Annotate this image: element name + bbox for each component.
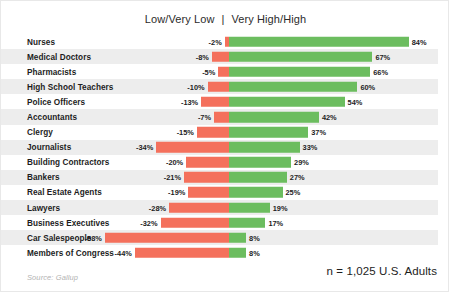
value-label-negative: -32%: [140, 218, 157, 227]
category-label: Pharmacists: [27, 67, 76, 76]
category-label: Accountants: [27, 113, 77, 122]
value-label-positive: 25%: [286, 188, 301, 197]
chart-row: Car Salespeople-58%8%: [1, 230, 438, 245]
bar-positive: [229, 217, 265, 228]
bar-negative: [201, 97, 229, 108]
category-label: Nurses: [27, 37, 55, 46]
bar-positive: [229, 233, 246, 244]
value-label-negative: -58%: [85, 233, 102, 242]
chart-row: Medical Doctors-8%67%: [1, 49, 438, 64]
value-label-positive: 33%: [303, 143, 318, 152]
value-label-positive: 29%: [294, 158, 309, 167]
value-label-positive: 66%: [373, 67, 388, 76]
chart-container: Low/Very Low|Very High/High Nurses-2%84%…: [0, 0, 449, 292]
value-label-positive: 42%: [322, 113, 337, 122]
chart-row: Lawyers-28%19%: [1, 200, 438, 215]
chart-row: Business Executives-32%17%: [1, 215, 438, 230]
value-label-negative: -13%: [181, 97, 198, 106]
chart-row: Nurses-2%84%: [1, 34, 438, 49]
value-label-positive: 60%: [360, 82, 375, 91]
category-label: Clergy: [27, 128, 53, 137]
value-label-negative: -19%: [168, 188, 185, 197]
bar-negative: [169, 202, 229, 213]
value-label-positive: 27%: [290, 173, 305, 182]
bar-negative: [218, 66, 229, 77]
bar-positive: [229, 51, 372, 62]
category-label: Journalists: [27, 143, 71, 152]
bar-positive: [229, 112, 319, 123]
bar-negative: [135, 248, 229, 259]
value-label-positive: 54%: [348, 97, 363, 106]
chart-row: Pharmacists-5%66%: [1, 64, 438, 79]
bar-negative: [212, 51, 229, 62]
chart-row: Real Estate Agents-19%25%: [1, 185, 438, 200]
source-note: Source: Gallup: [27, 273, 78, 282]
bar-negative: [188, 187, 229, 198]
bar-positive: [229, 157, 291, 168]
sample-size-note: n = 1,025 U.S. Adults: [327, 265, 437, 277]
chart-legend: Low/Very Low|Very High/High: [1, 13, 449, 25]
bar-positive: [229, 36, 409, 47]
chart-plot-area: Nurses-2%84%Medical Doctors-8%67%Pharmac…: [1, 34, 449, 262]
bar-negative: [186, 157, 229, 168]
value-label-negative: -5%: [202, 67, 215, 76]
value-label-positive: 67%: [375, 52, 390, 61]
value-label-positive: 84%: [412, 37, 427, 46]
value-label-negative: -8%: [196, 52, 209, 61]
bar-negative: [214, 112, 229, 123]
category-label: Car Salespeople: [27, 233, 91, 242]
category-label: Police Officers: [27, 97, 85, 106]
chart-row: Clergy-15%37%: [1, 125, 438, 140]
category-label: Building Contractors: [27, 158, 109, 167]
bar-negative: [156, 142, 229, 153]
category-label: Bankers: [27, 173, 60, 182]
category-label: Members of Congress: [27, 248, 114, 257]
bar-positive: [229, 248, 246, 259]
value-label-negative: -15%: [177, 128, 194, 137]
value-label-negative: -44%: [115, 248, 132, 257]
category-label: Business Executives: [27, 218, 109, 227]
value-label-negative: -34%: [136, 143, 153, 152]
bar-positive: [229, 202, 270, 213]
bar-positive: [229, 187, 283, 198]
value-label-positive: 8%: [249, 233, 260, 242]
bar-positive: [229, 66, 370, 77]
chart-row: Accountants-7%42%: [1, 109, 438, 124]
legend-divider: |: [214, 13, 231, 25]
bar-positive: [229, 97, 345, 108]
value-label-negative: -2%: [209, 37, 222, 46]
bar-positive: [229, 142, 300, 153]
legend-label-low: Low/Very Low: [145, 13, 215, 25]
value-label-negative: -7%: [198, 113, 211, 122]
bar-negative: [208, 82, 229, 93]
chart-row: Bankers-21%27%: [1, 170, 438, 185]
value-label-negative: -10%: [187, 82, 204, 91]
value-label-positive: 8%: [249, 248, 260, 257]
bar-positive: [229, 127, 308, 138]
chart-row: High School Teachers-10%60%: [1, 79, 438, 94]
bar-positive: [229, 82, 357, 93]
chart-row: Police Officers-13%54%: [1, 94, 438, 109]
chart-row: Building Contractors-20%29%: [1, 155, 438, 170]
legend-label-high: Very High/High: [231, 13, 306, 25]
value-label-negative: -21%: [164, 173, 181, 182]
value-label-negative: -28%: [149, 203, 166, 212]
bar-negative: [161, 217, 229, 228]
bar-negative: [105, 233, 229, 244]
value-label-positive: 19%: [273, 203, 288, 212]
category-label: Medical Doctors: [27, 52, 91, 61]
value-label-positive: 17%: [268, 218, 283, 227]
bar-negative: [197, 127, 229, 138]
chart-row: Journalists-34%33%: [1, 140, 438, 155]
value-label-negative: -20%: [166, 158, 183, 167]
category-label: Real Estate Agents: [27, 188, 102, 197]
bar-negative: [184, 172, 229, 183]
chart-row: Members of Congress-44%8%: [1, 245, 438, 260]
category-label: High School Teachers: [27, 82, 113, 91]
bar-positive: [229, 172, 287, 183]
value-label-positive: 37%: [311, 128, 326, 137]
category-label: Lawyers: [27, 203, 60, 212]
